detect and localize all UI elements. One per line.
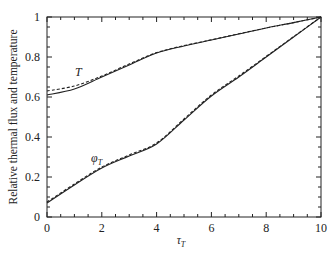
curve-t-solid: [47, 17, 321, 95]
y-tick-label: 0: [34, 210, 40, 224]
curve-label-T: T: [75, 65, 83, 79]
x-axis-label: τT: [177, 234, 186, 249]
x-tick-label: 4: [154, 221, 160, 235]
x-tick-label: 10: [315, 221, 327, 235]
x-tick-label: 6: [208, 221, 214, 235]
y-tick-label: 0.6: [25, 90, 40, 104]
y-tick-label: 1: [34, 10, 40, 24]
x-tick-label: 2: [99, 221, 105, 235]
y-tick-label: 0.4: [25, 130, 40, 144]
x-tick-label: 0: [44, 221, 50, 235]
curve-t-dashed: [47, 17, 321, 91]
x-tick-label: 8: [263, 221, 269, 235]
curves: [47, 17, 321, 203]
x-axis-tick-labels: 0246810: [44, 221, 327, 235]
curve-label-phi: φT: [91, 151, 103, 167]
y-axis-label: Relative thermal flux and temperature: [7, 30, 20, 205]
y-axis-tick-labels: 00.20.40.60.81: [25, 10, 40, 224]
y-tick-label: 0.8: [25, 50, 40, 64]
chart: 0246810 00.20.40.60.81 T φT τT Relative …: [0, 0, 336, 255]
curve--t-solid: [47, 17, 321, 203]
y-tick-label: 0.2: [25, 170, 40, 184]
curve--t-dashed: [47, 17, 321, 202]
